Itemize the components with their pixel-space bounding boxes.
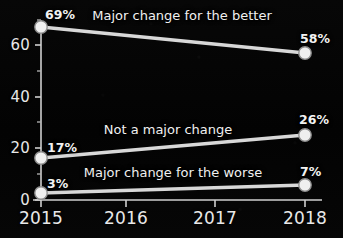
data-point-better-2018[interactable] [299,47,311,59]
y-axis-label-40: 40 [0,90,30,105]
y-axis [35,20,41,200]
data-point-not-major-2015[interactable] [35,152,47,164]
y-axis-label-0: 0 [0,193,30,208]
data-point-not-major-2018[interactable] [299,129,311,141]
value-label-worse-2015: 3% [47,178,68,191]
x-axis [33,200,322,207]
data-point-worse-2015[interactable] [35,187,47,199]
value-label-not-major-2015: 17% [47,142,77,155]
series-label-major-change-worse: Major change for the worse [84,166,262,179]
value-label-not-major-2018: 26% [299,114,329,127]
series-line-not-major-change [41,135,305,158]
series-line-major-change-better [41,27,305,53]
x-axis-label-2015: 2015 [19,210,63,227]
value-label-better-2018: 58% [300,33,330,46]
value-label-better-2015: 69% [45,9,75,22]
chart-plot-area [0,0,343,238]
series-label-not-a-major-change: Not a major change [104,123,233,136]
x-axis-label-2017: 2017 [193,210,237,227]
series-label-major-change-better: Major change for the better [92,9,271,22]
x-axis-label-2018: 2018 [283,210,327,227]
value-label-worse-2018: 7% [300,166,321,179]
y-axis-label-20: 20 [0,141,30,156]
series-line-major-change-worse [41,185,305,193]
y-axis-label-60: 60 [0,38,30,53]
x-axis-label-2016: 2016 [104,210,148,227]
data-point-worse-2018[interactable] [299,179,311,191]
data-point-better-2015[interactable] [35,21,47,33]
slope-chart: 60 40 20 0 2015 2016 2017 2018 69% 58% 1… [0,0,343,238]
